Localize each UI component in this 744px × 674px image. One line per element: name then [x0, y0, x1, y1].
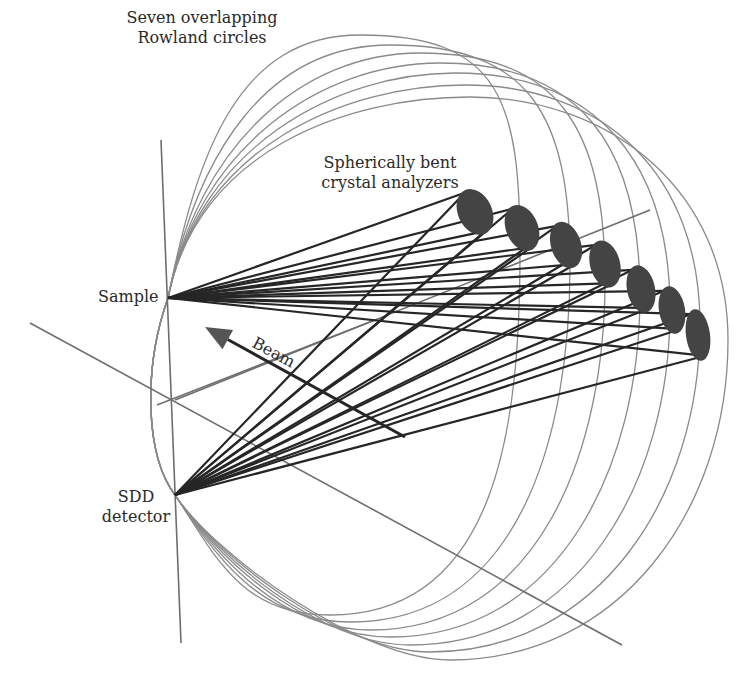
detector-ray-5: [175, 308, 649, 495]
axis-lines: [30, 140, 650, 645]
detector-ray-7: [175, 356, 705, 495]
rowland-circles: [151, 35, 728, 660]
x-ray-paths: [168, 193, 705, 495]
sample-label: Sample: [98, 287, 168, 307]
detector-ray-6: [175, 329, 680, 495]
rowland-circle-1: [151, 35, 520, 615]
rowland-circles-label: Seven overlapping Rowland circles: [112, 8, 292, 48]
rowland-spectrometer-diagram: [0, 0, 744, 674]
axis-line-2: [30, 323, 622, 645]
axis-line-1: [161, 140, 181, 643]
crystal-analyzer-3: [544, 218, 587, 273]
crystal-analyzer-2: [498, 200, 546, 256]
sdd-detector-label: SDD detector: [96, 487, 176, 527]
beam-arrowhead-icon: [205, 327, 233, 349]
diagram-canvas: Seven overlapping Rowland circles Spheri…: [0, 0, 744, 674]
crystal-analyzers-label: Spherically bent crystal analyzers: [300, 153, 480, 193]
